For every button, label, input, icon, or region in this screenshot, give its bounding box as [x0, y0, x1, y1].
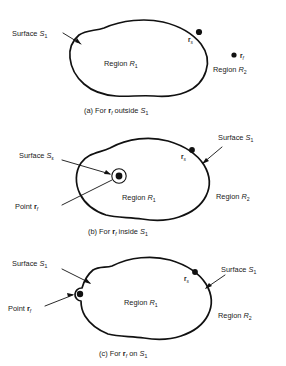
panel-b-caption: (b) For rf inside S1 [88, 227, 148, 237]
panel-c-field-point-dot [77, 291, 83, 297]
panel-b-surface-eps-label: Surface Sε [19, 151, 54, 161]
panel-b-point-label: Point rf [15, 202, 39, 212]
panel-b-region-outer-label: Region R2 [216, 192, 250, 202]
panel-b-source-point-dot [189, 147, 195, 153]
figure-container: Surface S1 Region R1 rs rf Region R2 (a)… [0, 0, 286, 366]
panel-a-region-inner-label: Region R1 [104, 59, 138, 69]
panel-c-surface-right-label: Surface S1 [221, 265, 256, 275]
panel-c-point-label: Point rf [8, 304, 32, 314]
panel-c-surface-left-label: Surface S1 [12, 259, 47, 269]
panel-c-region-inner-label: Region R1 [124, 298, 158, 308]
panel-a-surface-label: Surface S1 [12, 29, 47, 39]
panel-a: Surface S1 Region R1 rs rf Region R2 (a)… [12, 20, 247, 116]
panel-b-region-inner-label: Region R1 [122, 193, 156, 203]
panel-b-surface-leader [202, 147, 222, 164]
panel-b: Surface Sε Point rf Surface S1 rs Region… [15, 133, 253, 237]
panel-a-caption: (a) For rf outside S1 [84, 106, 148, 116]
panel-c-caption: (c) For rf on S1 [99, 349, 147, 359]
panel-b-field-point-dot [116, 173, 123, 180]
panel-c-point-leader [45, 293, 74, 306]
panel-c-surface-right-leader [205, 275, 225, 289]
panel-a-field-point-label: rf [240, 52, 245, 61]
panel-c-region-outer-label: Region R2 [218, 311, 252, 321]
panel-a-region-boundary [70, 20, 208, 96]
panel-b-surface-label: Surface S1 [218, 133, 253, 143]
panel-c: Surface S1 Point rf Surface S1 rs Region… [8, 257, 256, 358]
panel-a-region-outer-label: Region R2 [213, 65, 247, 75]
figure-svg: Surface S1 Region R1 rs rf Region R2 (a)… [0, 0, 286, 366]
panel-c-source-point-dot [192, 269, 198, 275]
panel-a-field-point-dot [231, 52, 236, 57]
panel-a-source-point-dot [196, 29, 202, 35]
